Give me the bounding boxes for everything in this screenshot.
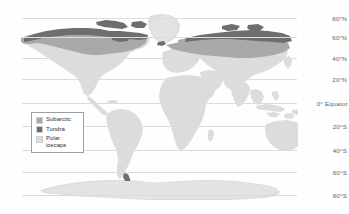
lat-label-40n: 40°N (299, 55, 347, 62)
legend-label-tundra: Tundra (46, 126, 65, 133)
gridline-equator (22, 103, 297, 104)
legend-swatch-subarctic (36, 117, 43, 124)
legend-label-polar-icecaps: Polar icecaps (46, 135, 66, 149)
legend-item-subarctic: Subarctic (36, 116, 80, 124)
map-legend: Subarctic Tundra Polar icecaps (31, 112, 84, 153)
lat-label-60s: 60°S (299, 169, 347, 176)
world-map-graphic (0, 0, 349, 214)
lat-label-20n: 20°N (299, 76, 347, 83)
gridline-40n (22, 58, 297, 59)
legend-label-subarctic: Subarctic (46, 116, 71, 123)
lat-label-60n: 60°N (299, 34, 347, 41)
gridline-20n (22, 79, 297, 80)
lat-label-80s: 80°S (299, 192, 347, 199)
lat-label-40s: 40°S (299, 147, 347, 154)
world-climate-map: 80°N 60°N 40°N 20°N 0° Equator 20°S 40°S… (0, 0, 349, 214)
legend-item-polar-icecaps: Polar icecaps (36, 135, 80, 149)
lat-label-equator: 0° Equator (296, 100, 348, 107)
gridline-80s (22, 195, 297, 196)
gridline-80n (22, 18, 297, 19)
legend-swatch-tundra (36, 126, 43, 133)
lat-label-20s: 20°S (299, 123, 347, 130)
gridline-60n (22, 37, 297, 38)
legend-item-tundra: Tundra (36, 126, 80, 134)
gridline-60s (22, 172, 297, 173)
lat-label-80n: 80°N (299, 15, 347, 22)
legend-swatch-polar-icecaps (36, 136, 43, 143)
